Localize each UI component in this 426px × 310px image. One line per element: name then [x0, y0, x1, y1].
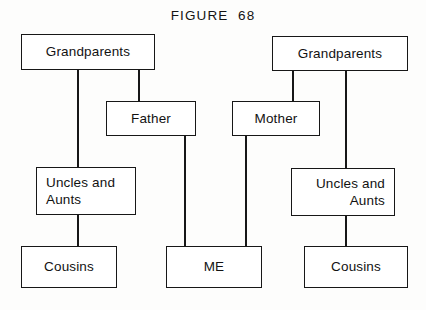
- node-label-mother: Mother: [255, 110, 298, 127]
- node-me: ME: [166, 246, 262, 288]
- node-uncles-aunts-paternal: Uncles and Aunts: [36, 167, 136, 215]
- connector-maternal-grandparents-to-mother: [292, 71, 294, 101]
- node-label-uncles-aunts-maternal: Uncles and Aunts: [316, 175, 385, 210]
- node-grandparents-maternal: Grandparents: [272, 36, 408, 71]
- node-grandparents-paternal: Grandparents: [21, 34, 155, 70]
- connector-paternal-grandparents-to-father: [138, 70, 140, 101]
- node-label-father: Father: [131, 110, 171, 127]
- node-mother: Mother: [232, 101, 320, 136]
- node-cousins-maternal: Cousins: [304, 246, 408, 288]
- node-label-cousins-maternal: Cousins: [331, 258, 381, 275]
- node-cousins-paternal: Cousins: [21, 246, 117, 288]
- connector-paternal-uncles-to-cousins: [77, 215, 79, 246]
- node-label-grandparents-maternal: Grandparents: [298, 45, 382, 62]
- node-label-me: ME: [204, 258, 225, 275]
- figure-title: FIGURE 68: [0, 8, 426, 23]
- connector-mother-to-me: [245, 136, 247, 246]
- connector-maternal-grandparents-to-uncles: [345, 71, 347, 168]
- connector-maternal-uncles-to-cousins: [345, 216, 347, 246]
- node-father: Father: [106, 101, 196, 136]
- node-uncles-aunts-maternal: Uncles and Aunts: [291, 168, 395, 216]
- connector-paternal-grandparents-to-uncles: [77, 70, 79, 167]
- family-tree-diagram: FIGURE 68 GrandparentsGrandparentsFather…: [0, 0, 426, 310]
- node-label-uncles-aunts-paternal: Uncles and Aunts: [46, 174, 115, 209]
- node-label-grandparents-paternal: Grandparents: [46, 43, 130, 60]
- node-label-cousins-paternal: Cousins: [44, 258, 94, 275]
- connector-father-to-me: [184, 136, 186, 246]
